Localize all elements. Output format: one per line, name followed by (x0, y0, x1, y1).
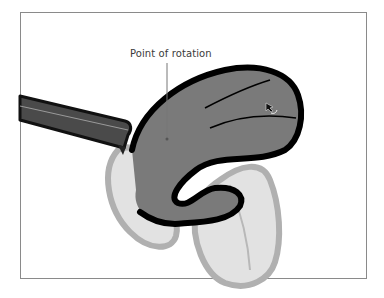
rotation-illustration (0, 0, 384, 298)
handle-stem (20, 96, 131, 155)
callout-label: Point of rotation (130, 48, 212, 59)
